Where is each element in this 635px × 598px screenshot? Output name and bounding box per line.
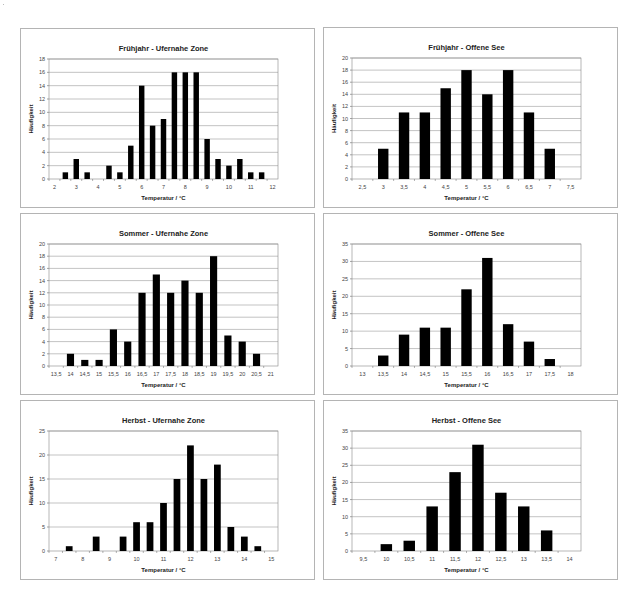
bar <box>248 172 253 179</box>
svg-text:15: 15 <box>342 497 348 503</box>
svg-text:15: 15 <box>342 311 348 317</box>
bar <box>541 530 552 551</box>
bar <box>204 139 209 179</box>
svg-text:3: 3 <box>382 184 385 190</box>
bars: 1313,51414,51515,51616,51717,518 <box>352 258 574 377</box>
svg-text:6: 6 <box>345 140 348 146</box>
chart-title: Frühjahr - Ufernahe Zone <box>119 44 209 53</box>
svg-text:8: 8 <box>42 314 45 320</box>
chart-title: Herbst - Offene See <box>432 416 502 425</box>
x-axis-label: Temperatur / °C <box>444 567 489 573</box>
chart-title: Sommer - Offene See <box>429 229 505 238</box>
chart-panel-herbst-ufernahe: Herbst - Ufernahe Zone051015202578910111… <box>20 400 315 580</box>
bar <box>183 72 188 179</box>
svg-text:5: 5 <box>118 184 121 190</box>
bar <box>63 172 68 179</box>
bars: 9,51010,51111,51212,51313,514 <box>352 445 573 562</box>
svg-text:20: 20 <box>239 371 245 377</box>
svg-text:2: 2 <box>345 164 348 170</box>
bar <box>237 159 242 179</box>
svg-text:6: 6 <box>507 184 510 190</box>
bar <box>93 537 100 551</box>
svg-text:16: 16 <box>484 371 490 377</box>
svg-text:9,5: 9,5 <box>360 556 368 562</box>
svg-text:15: 15 <box>443 371 449 377</box>
chart-title: Frühjahr - Offene See <box>428 43 504 52</box>
svg-text:18: 18 <box>568 371 574 377</box>
svg-text:2,5: 2,5 <box>359 184 367 190</box>
svg-text:16: 16 <box>125 371 131 377</box>
svg-text:5: 5 <box>42 524 45 530</box>
bar <box>254 546 261 551</box>
svg-text:20: 20 <box>342 293 348 299</box>
bar <box>215 159 220 179</box>
svg-text:18,5: 18,5 <box>194 371 205 377</box>
svg-text:6: 6 <box>140 184 143 190</box>
bar <box>399 112 409 179</box>
bar <box>503 324 513 366</box>
svg-text:14,5: 14,5 <box>420 371 431 377</box>
bar-chart: Sommer - Ufernahe Zone024681012141618201… <box>21 214 314 394</box>
bar <box>239 342 246 366</box>
chart-panel-sommer-ufernahe: Sommer - Ufernahe Zone024681012141618201… <box>20 213 315 395</box>
bar <box>124 342 131 366</box>
chart-panel-sommer-offene-see: Sommer - Offene See051015202530351313,51… <box>323 213 618 395</box>
svg-text:17,5: 17,5 <box>165 371 176 377</box>
bars: 23456789101112 <box>49 72 276 190</box>
svg-text:14: 14 <box>39 83 45 89</box>
svg-text:11: 11 <box>161 556 167 562</box>
x-axis-label: Temperatur / °C <box>141 195 186 201</box>
svg-text:25: 25 <box>39 428 45 434</box>
chart-panel-herbst-offene-see: Herbst - Offene See051015202530359,51010… <box>323 400 618 580</box>
svg-text:8: 8 <box>184 184 187 190</box>
svg-text:6: 6 <box>42 136 45 142</box>
y-axis-label: Häufigkeit <box>28 104 34 133</box>
svg-text:15: 15 <box>96 371 102 377</box>
svg-text:8: 8 <box>345 128 348 134</box>
bar <box>150 126 155 179</box>
svg-text:15: 15 <box>39 476 45 482</box>
svg-text:0: 0 <box>345 363 348 369</box>
bar <box>378 356 388 366</box>
svg-text:12: 12 <box>39 290 45 296</box>
svg-text:10: 10 <box>133 556 139 562</box>
svg-text:25: 25 <box>342 462 348 468</box>
bar <box>224 336 231 367</box>
svg-text:16,5: 16,5 <box>503 371 514 377</box>
svg-text:5: 5 <box>345 531 348 537</box>
svg-text:16: 16 <box>39 69 45 75</box>
svg-text:15: 15 <box>268 556 274 562</box>
svg-text:9: 9 <box>206 184 209 190</box>
svg-text:15,5: 15,5 <box>108 371 119 377</box>
svg-text:25: 25 <box>342 276 348 282</box>
bar <box>461 70 471 179</box>
svg-text:20: 20 <box>342 55 348 61</box>
svg-text:35: 35 <box>342 241 348 247</box>
svg-text:13,5: 13,5 <box>51 371 62 377</box>
svg-text:18: 18 <box>39 253 45 259</box>
bar <box>378 149 388 179</box>
svg-text:11: 11 <box>429 556 435 562</box>
bar <box>139 86 144 179</box>
bar <box>187 445 194 551</box>
bar <box>426 506 437 551</box>
bar <box>196 293 203 366</box>
bar <box>440 88 450 179</box>
svg-text:14: 14 <box>566 556 572 562</box>
bar <box>545 149 555 179</box>
y-axis-label: Häufigkeit <box>331 104 337 133</box>
bar <box>120 537 127 551</box>
svg-text:13,5: 13,5 <box>378 371 389 377</box>
svg-text:14: 14 <box>39 278 45 284</box>
bar <box>524 112 534 179</box>
y-gridlines: 0510152025 <box>39 428 278 554</box>
bar <box>214 465 221 551</box>
svg-text:10: 10 <box>39 500 45 506</box>
svg-text:19,5: 19,5 <box>223 371 234 377</box>
svg-text:13: 13 <box>359 371 365 377</box>
svg-text:13,5: 13,5 <box>541 556 552 562</box>
svg-text:14: 14 <box>401 371 407 377</box>
svg-text:4: 4 <box>42 339 45 345</box>
bar <box>495 493 506 551</box>
svg-text:3: 3 <box>75 184 78 190</box>
